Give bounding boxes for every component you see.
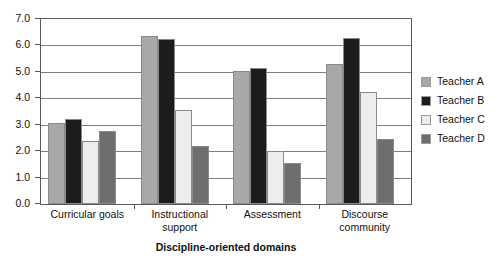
x-axis-tick-mark (226, 204, 227, 209)
x-axis-tick-mark (134, 204, 135, 209)
bar (48, 123, 65, 204)
bar (284, 163, 301, 204)
y-axis-tick-label: 5.0 (15, 66, 30, 76)
legend-swatch-icon (421, 77, 431, 87)
y-axis-tick-label: 0.0 (15, 198, 30, 208)
bar-group (319, 19, 412, 204)
x-axis-tick-mark (319, 204, 320, 209)
legend: Teacher ATeacher BTeacher CTeacher D (421, 72, 501, 148)
legend-item[interactable]: Teacher D (421, 129, 501, 148)
y-axis-tick-label: 1.0 (15, 172, 30, 182)
bar (233, 71, 250, 204)
legend-swatch-icon (421, 96, 431, 106)
x-axis-title: Discipline-oriented domains (41, 241, 411, 253)
bar-group (41, 19, 134, 204)
bar-group (134, 19, 227, 204)
bar-group (226, 19, 319, 204)
y-axis-tick-label: 7.0 (15, 13, 30, 23)
x-axis-category-labels: Curricular goalsInstructionalsupportAsse… (41, 208, 411, 242)
legend-item-label: Teacher C (437, 114, 485, 125)
legend-item[interactable]: Teacher A (421, 72, 501, 91)
x-axis-category-label-line: Instructional (134, 208, 227, 221)
bar (141, 36, 158, 204)
x-axis-category-label-line: Curricular goals (41, 208, 134, 221)
bar (82, 141, 99, 204)
bar (175, 110, 192, 204)
y-axis: 0.01.02.03.04.05.06.07.0 (0, 18, 36, 205)
x-axis-category-label: Curricular goals (41, 208, 134, 221)
legend-swatch-icon (421, 134, 431, 144)
bar (65, 119, 82, 204)
legend-item-label: Teacher D (437, 133, 485, 144)
y-axis-tick-label: 2.0 (15, 145, 30, 155)
x-axis-category-label-line: Assessment (226, 208, 319, 221)
x-axis-category-label-line: Discourse (319, 208, 412, 221)
chart-container: 0.01.02.03.04.05.06.07.0 Curricular goal… (0, 0, 502, 270)
bar (192, 146, 209, 204)
y-axis-tick-label: 3.0 (15, 119, 30, 129)
x-axis-category-label-line: community (319, 221, 412, 234)
bar (377, 139, 394, 204)
bar (326, 64, 343, 204)
bar (360, 92, 377, 204)
legend-item-label: Teacher A (437, 76, 484, 87)
legend-swatch-icon (421, 115, 431, 125)
bar (158, 39, 175, 204)
legend-item[interactable]: Teacher B (421, 91, 501, 110)
x-axis-category-label: Assessment (226, 208, 319, 221)
legend-item[interactable]: Teacher C (421, 110, 501, 129)
legend-item-label: Teacher B (437, 95, 484, 106)
x-axis-category-label: Instructionalsupport (134, 208, 227, 233)
bar (99, 131, 116, 204)
bar (343, 38, 360, 205)
bars-layer (41, 19, 411, 204)
y-axis-tick-label: 6.0 (15, 39, 30, 49)
x-axis-category-label: Discoursecommunity (319, 208, 412, 233)
bar (267, 151, 284, 204)
bar (250, 68, 267, 204)
y-axis-tick-label: 4.0 (15, 92, 30, 102)
x-axis-category-label-line: support (134, 221, 227, 234)
